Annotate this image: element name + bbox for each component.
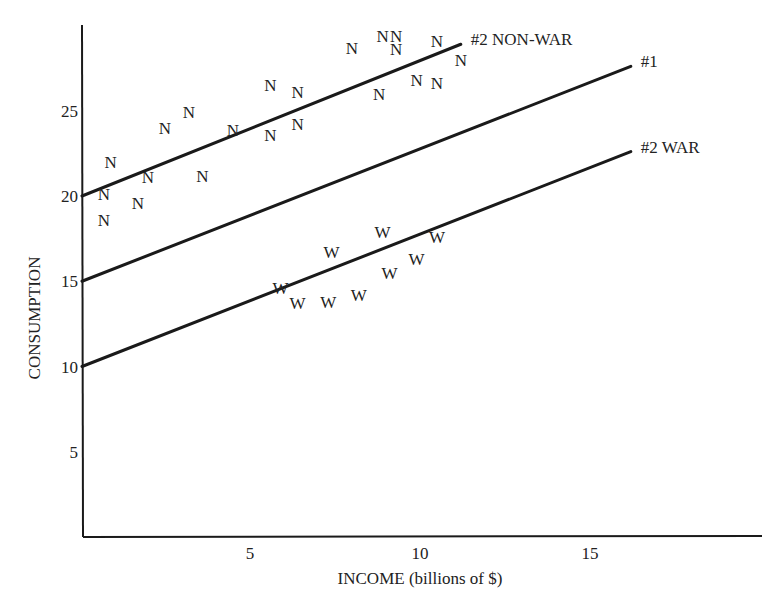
war-point: W — [409, 250, 426, 269]
regression-line — [82, 44, 461, 196]
non-war-point: N — [264, 126, 276, 145]
war-point: W — [320, 293, 337, 312]
non-war-point: N — [376, 27, 388, 46]
war-point: W — [429, 228, 446, 247]
non-war-point: N — [142, 168, 154, 187]
war-point: W — [324, 243, 341, 262]
non-war-point: N — [410, 71, 422, 90]
non-war-point: N — [104, 153, 116, 172]
y-tick-label: 25 — [61, 102, 78, 121]
non-war-point: N — [227, 121, 239, 140]
non-war-point: N — [431, 32, 443, 51]
war-point: W — [290, 294, 307, 313]
non-war-point: N — [431, 74, 443, 93]
x-axis-label: INCOME (billions of $) — [338, 569, 503, 588]
y-axis-label: CONSUMPTION — [25, 257, 44, 380]
y-tick-label: 10 — [61, 358, 78, 377]
y-tick-label: 5 — [70, 443, 79, 462]
y-tick-labels: 510152025 — [61, 102, 78, 462]
scatter-chart: 510152025 51015 #2 NON-WAR#1#2 WAR NNNNN… — [0, 0, 780, 616]
x-tick-labels: 51015 — [246, 544, 599, 563]
regression-lines: #2 NON-WAR#1#2 WAR — [82, 30, 700, 366]
x-tick-label: 15 — [582, 544, 599, 563]
non-war-point: N — [159, 119, 171, 138]
line-label: #2 NON-WAR — [471, 30, 573, 49]
line-label: #2 WAR — [641, 138, 700, 157]
line-label: #1 — [641, 52, 658, 71]
regression-line — [82, 66, 631, 281]
x-tick-label: 5 — [246, 544, 255, 563]
non-war-point: N — [455, 51, 467, 70]
x-axis — [83, 536, 762, 537]
non-war-point: N — [196, 167, 208, 186]
non-war-point: N — [98, 211, 110, 230]
non-war-point: N — [98, 185, 110, 204]
war-point: W — [375, 223, 392, 242]
non-war-point: N — [346, 39, 358, 58]
axes — [82, 25, 762, 537]
regression-line — [82, 152, 631, 367]
non-war-point: N — [390, 40, 402, 59]
non-war-point: N — [264, 76, 276, 95]
non-war-point: N — [132, 194, 144, 213]
war-point: W — [381, 264, 398, 283]
war-point: W — [273, 279, 290, 298]
data-points: NNNNNNNNNNNNNNNNNNNNNNWWWWWWWWW — [98, 27, 467, 314]
war-point: W — [351, 286, 368, 305]
x-tick-label: 10 — [412, 544, 429, 563]
non-war-point: N — [183, 103, 195, 122]
non-war-point: N — [291, 83, 303, 102]
y-tick-label: 15 — [61, 272, 78, 291]
non-war-point: N — [373, 85, 385, 104]
non-war-point: N — [291, 115, 303, 134]
y-tick-label: 20 — [61, 187, 78, 206]
